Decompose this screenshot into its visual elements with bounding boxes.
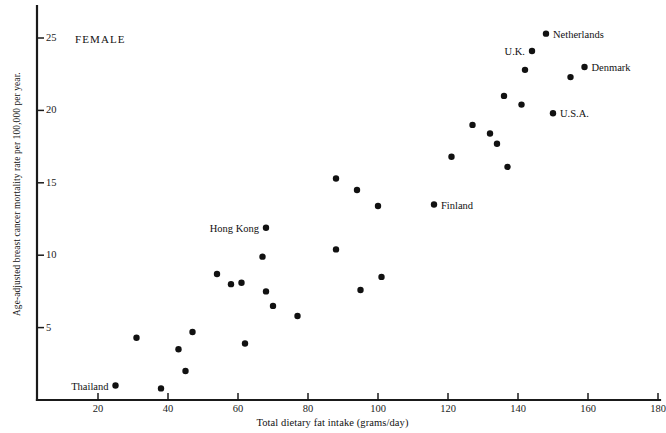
data-point (469, 122, 475, 128)
data-point-u-s-a (550, 110, 556, 116)
data-point-denmark (581, 64, 587, 70)
point-label-u-k: U.K. (505, 46, 525, 57)
data-point-thailand (112, 382, 118, 388)
point-label-finland: Finland (441, 199, 473, 210)
data-point (182, 368, 188, 374)
data-point (567, 74, 573, 80)
data-point (270, 303, 276, 309)
data-point-finland (431, 201, 437, 207)
female-group-annotation: FEMALE (75, 33, 126, 45)
data-point (133, 335, 139, 341)
point-label-netherlands: Netherlands (553, 28, 604, 39)
data-point (214, 271, 220, 277)
data-point (228, 281, 234, 287)
y-axis-label: Age-adjusted breast cancer mortality rat… (12, 86, 22, 316)
point-label-thailand: Thailand (71, 380, 108, 391)
data-point (242, 340, 248, 346)
data-point (189, 329, 195, 335)
data-point (333, 246, 339, 252)
data-point (158, 385, 164, 391)
data-point (294, 313, 300, 319)
data-point (354, 187, 360, 193)
x-tick-label: 120 (440, 403, 456, 414)
x-tick-label: 20 (93, 403, 104, 414)
data-point (259, 253, 265, 259)
axes-group (37, 6, 660, 400)
data-point (333, 175, 339, 181)
data-point (494, 141, 500, 147)
point-label-hong-kong: Hong Kong (210, 222, 259, 233)
x-tick-label: 160 (580, 403, 596, 414)
x-tick-label: 60 (233, 403, 244, 414)
x-tick-label: 140 (510, 403, 526, 414)
y-tick-label: 20 (46, 104, 57, 115)
data-point (263, 288, 269, 294)
data-point (175, 346, 181, 352)
data-point (504, 164, 510, 170)
y-tick-label: 25 (46, 32, 57, 43)
data-point-u-k (529, 48, 535, 54)
point-label-u-s-a: U.S.A. (560, 108, 589, 119)
data-point (522, 67, 528, 73)
x-tick-label: 180 (650, 403, 666, 414)
data-point-hong-kong (263, 224, 269, 230)
x-axis-label: Total dietary fat intake (grams/day) (256, 417, 408, 428)
x-tick-label: 40 (163, 403, 174, 414)
data-point-netherlands (543, 30, 549, 36)
x-tick-label: 100 (370, 403, 386, 414)
data-point (448, 154, 454, 160)
data-point (238, 280, 244, 286)
point-label-denmark: Denmark (592, 61, 631, 72)
y-tick-label: 5 (46, 322, 51, 333)
data-point (501, 93, 507, 99)
y-tick-label: 15 (46, 177, 57, 188)
data-points-group (112, 30, 587, 391)
data-point (518, 101, 524, 107)
data-point (487, 130, 493, 136)
y-tick-label: 10 (46, 249, 57, 260)
x-tick-label: 80 (303, 403, 314, 414)
data-point (378, 274, 384, 280)
data-point (375, 203, 381, 209)
data-point (357, 287, 363, 293)
tick-marks-group (37, 38, 658, 400)
